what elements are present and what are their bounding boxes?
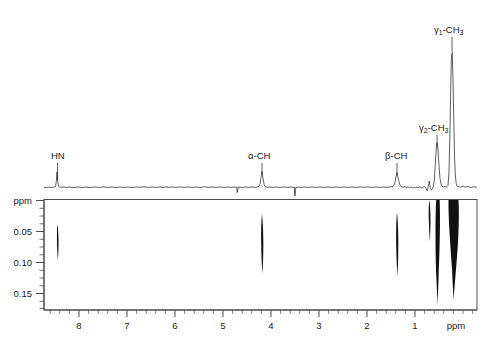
x-tick-label-7: 7 bbox=[124, 320, 129, 331]
x-tick-label-4: 4 bbox=[268, 320, 273, 331]
y-tick-label-015: 0.15 bbox=[14, 288, 33, 299]
x-tick-label-1: 1 bbox=[412, 320, 417, 331]
peak-label-alpha-ch: α-CH bbox=[248, 150, 271, 161]
x-tick-label-6: 6 bbox=[172, 320, 177, 331]
x-tick-label-3: 3 bbox=[316, 320, 321, 331]
gamma1-ch: -CH bbox=[443, 24, 460, 35]
x-axis-unit-label: ppm bbox=[447, 320, 466, 331]
peak-label-gamma2-ch3: γ2-CH3 bbox=[419, 122, 449, 134]
gamma1-ch3-subscript: 3 bbox=[460, 29, 464, 36]
gamma2-ch: -CH bbox=[428, 122, 445, 133]
y-tick-label-010: 0.10 bbox=[14, 257, 33, 268]
gamma2-ch3-subscript: 3 bbox=[445, 127, 449, 134]
x-tick-label-2: 2 bbox=[364, 320, 369, 331]
spectrum-canvas: HN α-CH β-CH γ2-CH3 γ1-CH3 bbox=[0, 0, 487, 341]
peak-label-gamma1-ch3: γ1-CH3 bbox=[434, 24, 464, 36]
figure-background bbox=[0, 0, 487, 341]
peak-label-beta-ch: β-CH bbox=[385, 150, 407, 161]
x-tick-label-5: 5 bbox=[220, 320, 225, 331]
y-tick-label-005: 0.05 bbox=[14, 226, 33, 237]
x-tick-label-8: 8 bbox=[76, 320, 81, 331]
peak-label-hn: HN bbox=[51, 150, 65, 161]
nmr-spectrum-figure: HN α-CH β-CH γ2-CH3 γ1-CH3 bbox=[0, 0, 487, 341]
y-tick-label-ppm: ppm bbox=[14, 195, 33, 206]
